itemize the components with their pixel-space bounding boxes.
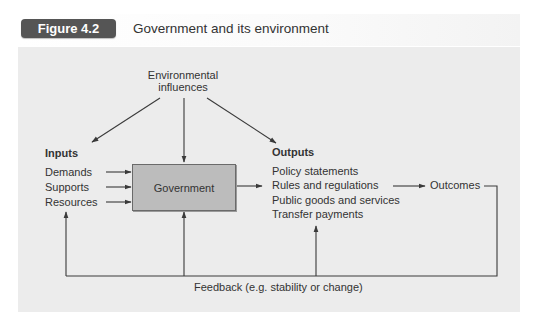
output-transfer-payments: Transfer payments bbox=[272, 208, 363, 221]
env-to-inputs-arrow bbox=[92, 98, 160, 142]
government-label: Government bbox=[154, 182, 215, 194]
env-to-outputs-arrow bbox=[207, 98, 276, 143]
outputs-heading: Outputs bbox=[272, 146, 314, 159]
environmental-influences-label-line2: influences bbox=[133, 81, 233, 94]
input-demands: Demands bbox=[45, 166, 92, 179]
input-supports: Supports bbox=[45, 181, 89, 194]
inputs-heading: Inputs bbox=[45, 147, 78, 160]
feedback-label: Feedback (e.g. stability or change) bbox=[194, 281, 363, 294]
output-public-goods: Public goods and services bbox=[272, 194, 400, 207]
government-node: Government bbox=[132, 164, 236, 211]
output-policy-statements: Policy statements bbox=[272, 165, 358, 178]
input-resources: Resources bbox=[45, 196, 98, 209]
output-rules-regulations: Rules and regulations bbox=[272, 179, 378, 192]
diagram-connectors bbox=[0, 0, 536, 329]
outcomes-label: Outcomes bbox=[430, 179, 480, 192]
